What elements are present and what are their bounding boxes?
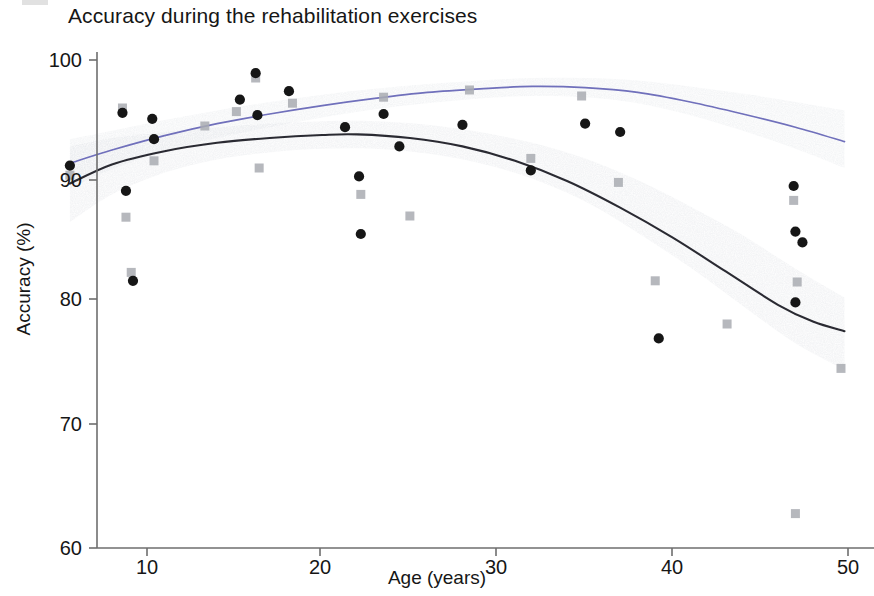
data-point-circle: [251, 68, 261, 78]
data-point-square: [379, 93, 388, 102]
data-point-circle: [117, 108, 127, 118]
data-point-circle: [654, 333, 664, 343]
data-point-circle: [149, 134, 159, 144]
data-point-square: [255, 164, 264, 173]
data-point-circle: [128, 276, 138, 286]
data-point-circle: [789, 181, 799, 191]
data-point-circle: [615, 127, 625, 137]
data-point-square: [614, 178, 623, 187]
data-point-square: [651, 276, 660, 285]
data-point-circle: [235, 95, 245, 105]
y-tick-60: 60: [18, 537, 82, 560]
data-point-circle: [790, 227, 800, 237]
data-point-circle: [340, 122, 350, 132]
data-point-circle: [457, 120, 467, 130]
data-point-circle: [797, 237, 807, 247]
data-point-square: [577, 92, 586, 101]
y-axis-label: Accuracy (%): [13, 189, 35, 369]
data-point-square: [465, 86, 474, 95]
y-tick-100: 100: [18, 49, 82, 72]
data-point-square: [526, 154, 535, 163]
data-point-square: [150, 156, 159, 165]
data-point-square: [836, 364, 845, 373]
chart-figure: Accuracy during the rehabilitation exerc…: [0, 0, 874, 596]
data-point-circle: [580, 119, 590, 129]
x-axis-label: Age (years): [0, 567, 874, 589]
data-point-circle: [354, 171, 364, 181]
data-point-circle: [356, 229, 366, 239]
data-point-square: [288, 99, 297, 108]
data-point-square: [789, 196, 798, 205]
data-point-circle: [526, 165, 536, 175]
data-point-square: [200, 122, 209, 131]
data-point-square: [232, 107, 241, 116]
data-point-square: [793, 278, 802, 287]
data-point-square: [356, 190, 365, 199]
data-point-square: [723, 320, 732, 329]
data-point-square: [405, 212, 414, 221]
data-point-circle: [790, 297, 800, 307]
confidence-band: [70, 121, 845, 370]
data-point-circle: [147, 114, 157, 124]
data-point-circle: [121, 186, 131, 196]
y-tick-70: 70: [18, 413, 82, 436]
data-point-circle: [252, 110, 262, 120]
data-point-square: [127, 268, 136, 277]
data-point-square: [121, 213, 130, 222]
chart-plot-area: [0, 0, 874, 596]
data-point-circle: [394, 141, 404, 151]
data-point-circle: [378, 109, 388, 119]
data-point-circle: [284, 86, 294, 96]
data-point-square: [791, 509, 800, 518]
